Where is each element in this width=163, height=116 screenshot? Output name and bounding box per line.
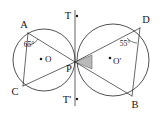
center-dot-o-prime bbox=[109, 57, 112, 60]
label-vertex-d: D bbox=[142, 14, 150, 25]
label-angle-d: 55° bbox=[120, 39, 131, 48]
label-tangent-top: T bbox=[65, 10, 72, 21]
circle-o bbox=[13, 29, 75, 91]
label-center-o: O bbox=[45, 54, 52, 64]
segment-bp bbox=[75, 62, 132, 96]
segment-ap bbox=[28, 33, 75, 62]
tangent-dot-t bbox=[76, 15, 78, 17]
center-dot-o bbox=[40, 58, 43, 61]
label-center-o-prime: O' bbox=[113, 56, 121, 66]
label-point-p: P bbox=[66, 63, 72, 74]
label-angle-a: 65° bbox=[24, 40, 35, 49]
label-vertex-c: C bbox=[11, 86, 18, 97]
label-vertex-a: A bbox=[20, 19, 28, 30]
label-vertex-b: B bbox=[131, 99, 138, 110]
segment-db bbox=[132, 28, 140, 96]
geometry-figure: A C D B P T T' O O' 65° 55° bbox=[0, 0, 163, 116]
tangent-dot-t-prime bbox=[76, 98, 78, 100]
label-tangent-bottom: T' bbox=[63, 94, 71, 105]
geometry-canvas: A C D B P T T' O O' 65° 55° bbox=[0, 0, 163, 116]
